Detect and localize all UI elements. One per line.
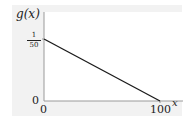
- x-tick-label-zero: 0: [40, 104, 47, 115]
- data-line-g: [44, 39, 160, 101]
- x-tick-label-100: 100: [150, 104, 171, 115]
- y-tick-top-denominator: 50: [27, 42, 41, 49]
- y-axis-label: g(x): [16, 8, 40, 20]
- y-tick-label-zero: 0: [32, 95, 39, 106]
- y-tick-label-top: 1 50: [27, 32, 41, 49]
- y-tick-top-numerator: 1: [27, 32, 41, 39]
- x-axis-label: x: [172, 98, 178, 108]
